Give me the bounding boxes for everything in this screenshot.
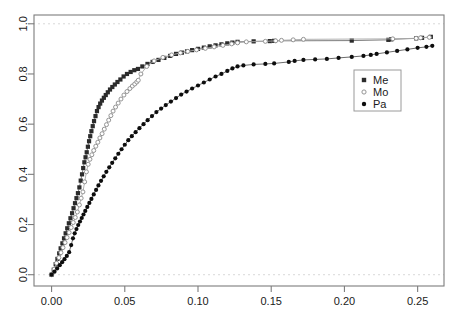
- data-point: [427, 35, 431, 39]
- data-point: [67, 231, 71, 235]
- data-point: [86, 162, 90, 166]
- data-point: [252, 62, 256, 66]
- data-point: [83, 209, 87, 213]
- data-point: [89, 129, 93, 133]
- data-point: [136, 67, 140, 71]
- data-point: [65, 254, 69, 258]
- data-point: [195, 48, 199, 52]
- data-point: [104, 123, 108, 127]
- data-point: [116, 101, 120, 105]
- data-point: [88, 157, 92, 161]
- data-point: [83, 155, 87, 159]
- data-point: [170, 53, 174, 57]
- y-tick-label-1: 0.2: [17, 217, 29, 232]
- data-point: [350, 55, 354, 59]
- data-point: [77, 185, 81, 189]
- data-point: [84, 170, 88, 174]
- data-point: [123, 143, 127, 147]
- data-point: [414, 36, 418, 40]
- data-point: [76, 191, 80, 195]
- data-point: [71, 221, 75, 225]
- data-point: [99, 179, 103, 183]
- reference-lines: [28, 24, 444, 275]
- data-point: [85, 205, 89, 209]
- data-point: [369, 53, 373, 57]
- data-point: [122, 93, 126, 97]
- data-point: [70, 211, 74, 215]
- data-point: [391, 37, 395, 41]
- data-point: [73, 201, 77, 205]
- data-point: [361, 54, 365, 58]
- data-point: [263, 39, 267, 43]
- data-point: [87, 201, 91, 205]
- data-point: [65, 226, 69, 230]
- data-point: [116, 152, 120, 156]
- data-point: [69, 243, 73, 247]
- data-point: [263, 62, 267, 66]
- data-point: [81, 166, 85, 170]
- data-point: [67, 250, 71, 254]
- data-point: [241, 63, 245, 67]
- data-point: [69, 226, 73, 230]
- x-axis-ticks: [52, 286, 418, 292]
- data-point: [336, 56, 340, 60]
- data-point: [95, 109, 99, 113]
- data-point: [119, 147, 123, 151]
- data-point: [49, 273, 53, 277]
- data-point: [385, 50, 389, 54]
- data-point: [104, 170, 108, 174]
- legend-label-mo: Mo: [373, 86, 388, 98]
- data-point: [202, 80, 206, 84]
- y-tick-label-4: 0.8: [17, 66, 29, 81]
- y-tick-label-0: 0.0: [17, 267, 29, 282]
- data-point: [230, 66, 234, 70]
- data-point: [287, 60, 291, 64]
- data-point: [301, 37, 305, 41]
- y-axis-tick-labels: 0.00.20.40.60.81.0: [17, 16, 29, 282]
- data-point: [395, 49, 399, 53]
- data-point: [96, 183, 100, 187]
- data-point: [152, 59, 156, 63]
- y-tick-label-3: 0.6: [17, 117, 29, 132]
- data-point: [102, 174, 106, 178]
- data-point: [93, 114, 97, 118]
- data-point: [87, 139, 91, 143]
- data-point: [74, 196, 78, 200]
- data-point: [169, 99, 173, 103]
- data-point: [129, 70, 133, 74]
- data-point: [184, 89, 188, 93]
- data-point: [113, 156, 117, 160]
- data-point: [111, 109, 115, 113]
- data-point: [89, 197, 93, 201]
- data-point: [139, 72, 143, 76]
- data-point: [86, 145, 90, 149]
- data-point: [236, 41, 240, 45]
- data-point: [272, 61, 276, 65]
- data-point: [73, 231, 77, 235]
- data-point: [107, 165, 111, 169]
- legend-marker-open-circle-icon: [362, 90, 366, 94]
- data-point: [85, 150, 89, 154]
- data-point: [186, 49, 190, 53]
- data-point: [79, 196, 83, 200]
- data-point: [225, 69, 229, 73]
- data-point: [59, 251, 63, 255]
- x-tick-label-5: 0.25: [407, 295, 428, 307]
- legend-marker-filled-square-icon: [362, 78, 366, 82]
- data-point: [424, 45, 428, 49]
- x-tick-label-3: 0.15: [261, 295, 282, 307]
- data-point: [190, 86, 194, 90]
- x-tick-label-4: 0.20: [334, 295, 355, 307]
- x-tick-label-1: 0.05: [114, 295, 135, 307]
- data-point: [77, 203, 81, 207]
- data-point: [164, 103, 168, 107]
- data-point: [114, 105, 118, 109]
- data-point: [98, 136, 102, 140]
- data-point: [430, 44, 434, 48]
- data-point: [79, 179, 83, 183]
- data-point: [405, 47, 409, 51]
- data-point: [230, 42, 234, 46]
- legend-marker-filled-circle-icon: [362, 102, 366, 106]
- data-point: [81, 190, 85, 194]
- y-axis-ticks: [28, 24, 34, 275]
